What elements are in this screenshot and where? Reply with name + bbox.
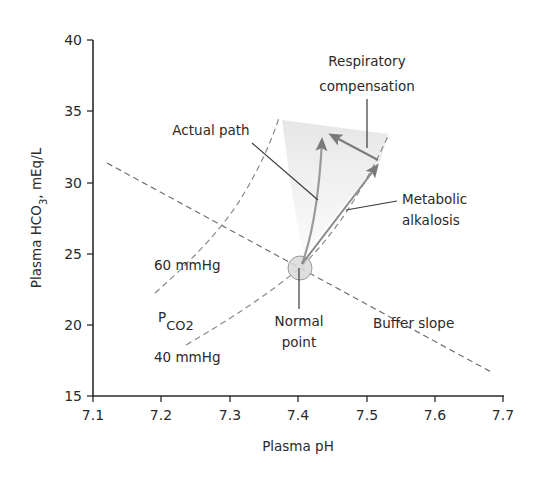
x-tick-7.4: 7.4 xyxy=(287,407,309,423)
acid-base-diagram: 40 35 30 25 20 15 7.1 7.2 7.3 7.4 7.5 7.… xyxy=(0,0,541,483)
y-tick-30: 30 xyxy=(64,175,82,191)
respiratory-compensation-label-line2: compensation xyxy=(319,78,414,94)
metabolic-alkalosis-label-line1: Metabolic xyxy=(402,191,467,207)
y-tick-40: 40 xyxy=(64,32,82,48)
x-tick-7.7: 7.7 xyxy=(492,407,514,423)
x-tick-labels: 7.1 7.2 7.3 7.4 7.5 7.6 7.7 xyxy=(82,407,514,423)
x-axis-label: Plasma pH xyxy=(262,438,334,454)
60-mmhg-label: 60 mmHg xyxy=(154,257,221,273)
y-tick-20: 20 xyxy=(64,317,82,333)
normal-point-label-line2: point xyxy=(282,334,316,350)
normal-point-label-line1: Normal xyxy=(275,313,324,329)
metabolic-alkalosis-label-line2: alkalosis xyxy=(402,212,460,228)
compensation-region xyxy=(282,120,388,255)
x-tick-7.5: 7.5 xyxy=(356,407,378,423)
40-mmhg-label: 40 mmHg xyxy=(154,349,221,365)
y-tick-15: 15 xyxy=(64,388,82,404)
y-tick-labels: 40 35 30 25 20 15 xyxy=(64,32,82,404)
y-axis-label: Plasma HCO3, mEq/L xyxy=(28,147,49,288)
y-tick-25: 25 xyxy=(64,246,82,262)
x-tick-7.2: 7.2 xyxy=(150,407,172,423)
normal-point-circle xyxy=(288,256,312,280)
metab-leader xyxy=(346,201,397,210)
pco2-label: PCO2 xyxy=(158,309,194,333)
respiratory-compensation-label-line1: Respiratory xyxy=(328,53,405,69)
buffer-slope-label: Buffer slope xyxy=(373,315,454,331)
y-tick-35: 35 xyxy=(64,103,82,119)
x-tick-7.1: 7.1 xyxy=(82,407,104,423)
actual-path-label: Actual path xyxy=(172,122,249,138)
x-tick-7.6: 7.6 xyxy=(424,407,446,423)
x-tick-7.3: 7.3 xyxy=(219,407,241,423)
